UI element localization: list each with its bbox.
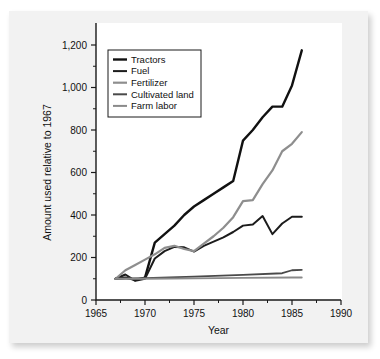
y-tick-label: 1,200: [62, 40, 87, 51]
chart-page: 02004006008001,0001,20019651970197519801…: [0, 0, 380, 359]
chart-figure: 02004006008001,0001,20019651970197519801…: [9, 11, 368, 343]
x-tick-label: 1980: [232, 308, 255, 319]
chart-card: 02004006008001,0001,20019651970197519801…: [9, 11, 368, 343]
legend-label-farm-labor: Farm labor: [131, 100, 177, 111]
legend-label-fertilizer: Fertilizer: [131, 77, 167, 88]
y-axis-title: Amount used relative to 1967: [41, 104, 53, 241]
legend-label-tractors: Tractors: [131, 54, 166, 65]
line-chart-svg: 02004006008001,0001,20019651970197519801…: [9, 11, 368, 343]
x-tick-label: 1990: [330, 308, 353, 319]
x-axis-title: Year: [208, 324, 230, 336]
y-tick-label: 600: [70, 167, 87, 178]
x-tick-label: 1970: [134, 308, 157, 319]
x-tick-label: 1965: [85, 308, 108, 319]
chart-legend: TractorsFuelFertilizerCultivated landFar…: [108, 50, 201, 117]
x-tick-label: 1985: [281, 308, 304, 319]
legend-label-fuel: Fuel: [131, 65, 149, 76]
y-tick-label: 800: [70, 125, 87, 136]
y-tick-label: 0: [81, 295, 87, 306]
x-tick-label: 1975: [183, 308, 206, 319]
legend-label-cultivated-land: Cultivated land: [131, 89, 194, 100]
y-tick-label: 200: [70, 252, 87, 263]
y-tick-label: 400: [70, 210, 87, 221]
y-tick-label: 1,000: [62, 82, 87, 93]
